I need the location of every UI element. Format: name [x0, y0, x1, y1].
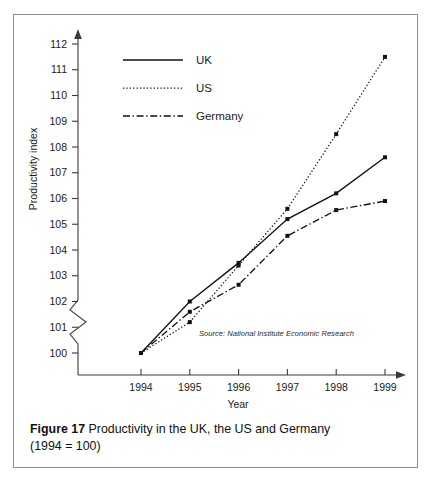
caption-label: Figure 17	[30, 422, 85, 436]
y-tick-label: 108	[49, 141, 67, 153]
y-tick-label: 100	[49, 347, 67, 359]
x-tick-label: 1997	[276, 381, 300, 393]
data-point-uk-1997	[285, 217, 289, 221]
data-point-germany-1998	[334, 208, 338, 212]
x-tick-label: 1998	[325, 381, 349, 393]
x-tick-label: 1999	[373, 381, 397, 393]
data-series-group	[139, 55, 387, 355]
data-point-germany-1999	[383, 199, 387, 203]
y-tick-label: 102	[49, 295, 67, 307]
legend-label-germany: Germany	[196, 110, 244, 122]
y-tick-label: 103	[49, 269, 67, 281]
y-axis-title: Productivity index	[27, 127, 39, 210]
data-point-uk-1998	[334, 191, 338, 195]
y-tick-label: 111	[51, 63, 67, 75]
x-tick-label: 1994	[129, 381, 153, 393]
data-point-germany-1996	[237, 283, 241, 287]
y-tick-label: 110	[50, 89, 67, 101]
x-axis	[78, 371, 406, 379]
x-axis-title: Year	[227, 398, 249, 410]
data-point-us-1998	[334, 132, 338, 136]
y-tick-label: 104	[49, 244, 67, 256]
chart-legend: UKUSGermany	[123, 54, 244, 122]
x-axis-ticks: 199419951996199719981999	[129, 369, 397, 393]
source-note: Source: National Institute Economic Rese…	[199, 329, 354, 338]
productivity-line-chart: 100101102103104105106107108109110111112 …	[13, 14, 418, 414]
series-line-us	[141, 57, 385, 353]
x-axis-arrowhead	[396, 371, 406, 379]
x-tick-label: 1996	[227, 381, 251, 393]
data-point-us-1997	[285, 207, 289, 211]
data-point-uk-1995	[188, 300, 192, 304]
y-axis-arrowhead	[74, 29, 82, 39]
caption-second-line: (1994 = 100)	[30, 439, 101, 453]
y-axis-ticks: 100101102103104105106107108109110111112	[49, 38, 78, 359]
data-point-us-1995	[188, 320, 192, 324]
data-point-us-1996	[237, 263, 241, 267]
y-axis	[70, 29, 86, 375]
y-tick-label: 101	[49, 321, 67, 333]
series-line-uk	[141, 157, 385, 353]
legend-label-us: US	[196, 82, 212, 94]
x-tick-label: 1995	[178, 381, 202, 393]
y-tick-label: 107	[49, 166, 67, 178]
data-point-germany-1997	[285, 234, 289, 238]
data-point-uk-1999	[383, 155, 387, 159]
figure-container: 100101102103104105106107108109110111112 …	[0, 0, 432, 485]
y-tick-label: 106	[49, 192, 67, 204]
y-tick-label: 109	[49, 115, 67, 127]
data-point-us-1999	[383, 55, 387, 59]
figure-caption: Figure 17 Productivity in the UK, the US…	[30, 421, 400, 455]
legend-label-uk: UK	[196, 54, 212, 66]
data-point-germany-1994	[139, 351, 143, 355]
y-tick-label: 105	[49, 218, 67, 230]
caption-text: Productivity in the UK, the US and Germa…	[89, 422, 331, 436]
y-tick-label: 112	[50, 38, 67, 50]
data-point-germany-1995	[188, 310, 192, 314]
